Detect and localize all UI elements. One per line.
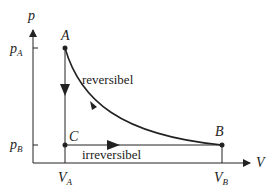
down-arrow-icon: [60, 84, 70, 96]
pv-diagram: p V pA pB VA VB A C B reversibel irrever…: [0, 0, 280, 195]
tick-label-VA: VA: [58, 170, 73, 187]
y-axis-label: p: [27, 8, 35, 23]
x-axis-label: V: [256, 155, 266, 170]
point-C: [63, 143, 68, 148]
reversible-arrow-icon: [90, 101, 97, 110]
tick-label-pA: pA: [9, 41, 23, 58]
tick-label-pB: pB: [9, 137, 23, 154]
reversible-path: [65, 48, 222, 145]
reversible-label: reversibel: [82, 72, 134, 87]
point-B: [220, 143, 225, 148]
point-A: [63, 46, 68, 51]
label-B: B: [215, 124, 224, 139]
irreversible-label: irreversibel: [82, 147, 142, 162]
label-C: C: [69, 129, 79, 144]
tick-label-VB: VB: [214, 170, 229, 187]
label-A: A: [60, 28, 70, 43]
